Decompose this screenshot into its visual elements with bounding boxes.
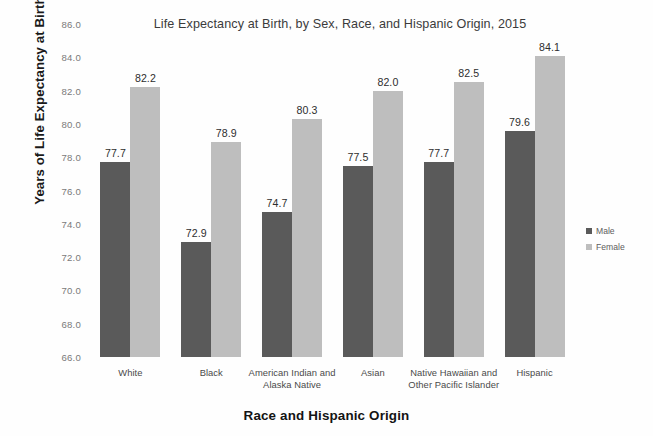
bar-chart: Life Expectancy at Birth, by Sex, Race, … xyxy=(0,0,653,436)
bar-group: 74.780.3American Indian and Alaska Nativ… xyxy=(252,24,333,357)
bar-group: 79.684.1Hispanic xyxy=(494,24,575,357)
legend-label: Male xyxy=(596,226,615,236)
bar-male[interactable]: 74.7 xyxy=(262,212,292,357)
bar-value-label: 78.9 xyxy=(216,127,237,139)
bar-female[interactable]: 78.9 xyxy=(211,142,241,357)
bar-female[interactable]: 84.1 xyxy=(535,56,565,357)
bar-male[interactable]: 72.9 xyxy=(181,242,211,357)
bar-value-label: 77.5 xyxy=(347,151,368,163)
y-axis-title: Years of Life Expectancy at Birth xyxy=(32,0,47,226)
y-axis-tick-label: 70.0 xyxy=(62,285,81,296)
bar-female[interactable]: 82.2 xyxy=(130,87,160,357)
y-axis-tick-label: 66.0 xyxy=(62,352,81,363)
bar-female[interactable]: 82.0 xyxy=(373,91,403,357)
x-axis-title: Race and Hispanic Origin xyxy=(0,408,653,423)
y-axis-tick-label: 72.0 xyxy=(62,252,81,263)
bar-female[interactable]: 80.3 xyxy=(292,119,322,357)
legend-label: Female xyxy=(596,242,625,252)
bar-male[interactable]: 77.7 xyxy=(424,162,454,357)
bar-value-label: 77.7 xyxy=(105,147,126,159)
bar-male[interactable]: 77.5 xyxy=(343,166,373,357)
bar-group: 77.782.5Native Hawaiian and Other Pacifi… xyxy=(413,24,494,357)
bar-value-label: 82.0 xyxy=(377,76,398,88)
legend-item[interactable]: Male xyxy=(586,226,648,236)
y-axis-tick-label: 76.0 xyxy=(62,185,81,196)
bars: 77.782.2 xyxy=(90,24,171,357)
legend-item[interactable]: Female xyxy=(586,242,648,252)
bar-value-label: 80.3 xyxy=(297,104,318,116)
y-axis-tick-label: 74.0 xyxy=(62,218,81,229)
bars: 74.780.3 xyxy=(252,24,333,357)
bar-value-label: 79.6 xyxy=(509,116,530,128)
y-axis-tick-label: 86.0 xyxy=(62,19,81,30)
y-axis-tick-label: 84.0 xyxy=(62,52,81,63)
bars: 79.684.1 xyxy=(494,24,575,357)
bars: 77.782.5 xyxy=(413,24,494,357)
bar-value-label: 77.7 xyxy=(428,147,449,159)
x-axis-category-label: Hispanic xyxy=(481,367,589,379)
bar-value-label: 74.7 xyxy=(267,197,288,209)
legend-swatch-icon xyxy=(586,228,592,234)
y-axis-tick-label: 78.0 xyxy=(62,152,81,163)
bar-female[interactable]: 82.5 xyxy=(454,82,484,357)
y-axis-tick-label: 80.0 xyxy=(62,118,81,129)
plot-area: 86.084.082.080.078.076.074.072.070.068.0… xyxy=(90,24,575,357)
bar-value-label: 82.2 xyxy=(135,72,156,84)
bars: 77.582.0 xyxy=(333,24,414,357)
legend-swatch-icon xyxy=(586,244,592,250)
bar-male[interactable]: 79.6 xyxy=(505,131,535,357)
bar-value-label: 82.5 xyxy=(458,67,479,79)
bar-group: 77.782.2White xyxy=(90,24,171,357)
y-axis-tick-label: 82.0 xyxy=(62,85,81,96)
y-axis-tick-label: 68.0 xyxy=(62,318,81,329)
bar-group: 77.582.0Asian xyxy=(333,24,414,357)
bar-group: 72.978.9Black xyxy=(171,24,252,357)
bar-male[interactable]: 77.7 xyxy=(100,162,130,357)
bar-value-label: 84.1 xyxy=(539,41,560,53)
bar-value-label: 72.9 xyxy=(186,227,207,239)
bars: 72.978.9 xyxy=(171,24,252,357)
chart-legend: MaleFemale xyxy=(586,226,648,258)
